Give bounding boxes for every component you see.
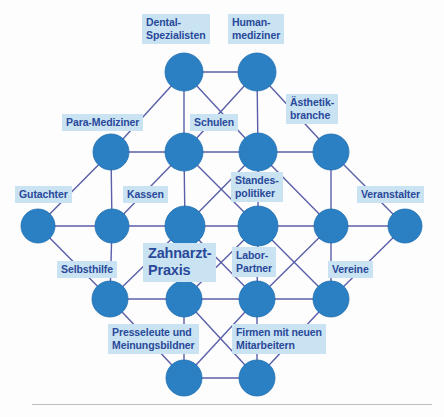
network-node[interactable] xyxy=(95,209,129,243)
network-node[interactable] xyxy=(239,281,275,317)
node-label-schulen: Schulen xyxy=(190,114,238,131)
node-label-labor-partner: Labor- Partner xyxy=(232,247,276,277)
network-node[interactable] xyxy=(239,360,275,396)
node-label-presseleute: Presseleute und Meinungsbildner xyxy=(108,324,199,354)
bottom-divider xyxy=(32,404,432,405)
network-node[interactable] xyxy=(388,209,422,243)
network-diagram-canvas: Dental- SpezialistenHuman- medizinerPara… xyxy=(0,0,444,417)
network-edge xyxy=(122,85,173,141)
network-edge xyxy=(271,239,320,288)
network-node[interactable] xyxy=(92,281,128,317)
node-label-firmen-mitarbeiter: Firmen mit neuen Mitarbeitern xyxy=(232,324,326,354)
node-label-gutachter: Gutachter xyxy=(15,186,72,203)
network-graph xyxy=(0,0,444,417)
network-node[interactable] xyxy=(93,134,129,170)
network-node[interactable] xyxy=(166,360,202,396)
network-node[interactable] xyxy=(165,133,203,171)
node-label-para-mediziner: Para-Mediziner xyxy=(62,114,143,131)
network-node[interactable] xyxy=(21,209,55,243)
node-label-standespolitiker: Standes- politiker xyxy=(231,172,283,202)
network-node[interactable] xyxy=(238,206,278,246)
network-edge xyxy=(111,168,112,211)
network-edge xyxy=(184,169,185,208)
node-label-vereine: Vereine xyxy=(328,261,373,278)
network-node[interactable] xyxy=(166,281,202,317)
node-label-kassen: Kassen xyxy=(123,186,168,203)
node-label-zahnarzt-praxis: Zahnarzt- Praxis xyxy=(143,243,216,282)
node-label-veranstalter: Veranstalter xyxy=(357,186,424,203)
node-label-dental-spezialisten: Dental- Spezialisten xyxy=(142,14,210,44)
network-node[interactable] xyxy=(314,209,348,243)
network-node[interactable] xyxy=(239,133,277,171)
network-node[interactable] xyxy=(238,53,276,91)
network-edge xyxy=(257,89,258,135)
node-label-humanmediziner: Human- mediziner xyxy=(228,14,284,44)
network-node[interactable] xyxy=(165,206,205,246)
network-node[interactable] xyxy=(165,53,203,91)
nodes-layer xyxy=(21,53,422,396)
network-node[interactable] xyxy=(313,134,349,170)
node-label-aesthetikbranche: Ästhetik- branche xyxy=(286,94,338,124)
network-node[interactable] xyxy=(313,281,349,317)
node-label-selbsthilfe: Selbsthilfe xyxy=(57,261,117,278)
